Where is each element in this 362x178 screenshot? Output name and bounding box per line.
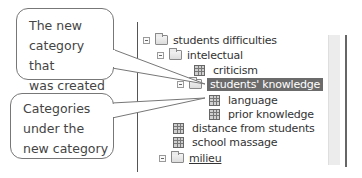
callout-line: The new [29,16,113,36]
callout-line: category that [29,36,113,76]
callout-new-category: The new category that was created [16,8,114,80]
pointer-join [112,50,115,67]
callout-line: Categories [23,99,113,119]
callout-line: new category [23,139,113,159]
callout-subcategories: Categories under the new category [10,93,114,159]
pointer-join [112,104,115,117]
callout-line: under the [23,119,113,139]
